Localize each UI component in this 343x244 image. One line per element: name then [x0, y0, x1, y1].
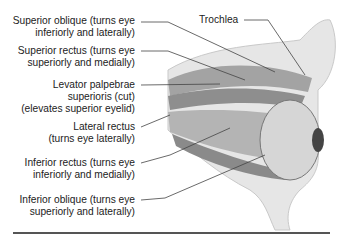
label-superior-oblique: Superior oblique (turns eye inferiorly a… — [13, 15, 135, 39]
bottom-rule-divider — [13, 232, 330, 234]
label-trochlea: Trochlea — [199, 14, 238, 25]
label-inferior-rectus: Inferior rectus (turns eye inferiorly an… — [25, 157, 135, 181]
cornea — [312, 128, 324, 152]
eyeball — [260, 100, 320, 180]
label-inferior-oblique: Inferior oblique (turns eye superiorly a… — [19, 194, 135, 218]
label-superior-rectus: Superior rectus (turns eye superiorly an… — [18, 45, 135, 69]
label-levator-palpebrae: Levator palpebrae superioris (cut) (elev… — [21, 79, 135, 115]
label-lateral-rectus: Lateral rectus (turns eye laterally) — [48, 121, 135, 145]
